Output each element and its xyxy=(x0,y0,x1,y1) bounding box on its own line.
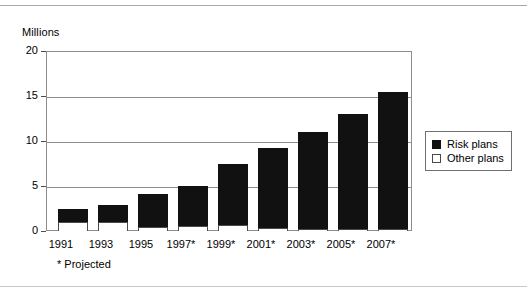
page-bottom-rule xyxy=(0,286,527,287)
bar-segment-other xyxy=(178,226,208,231)
y-tick-label-15: 15 xyxy=(14,90,38,101)
bar-segment-risk xyxy=(98,205,128,222)
bar-2005 xyxy=(338,114,368,231)
y-tick-label-10: 10 xyxy=(14,135,38,146)
bar-segment-other xyxy=(58,222,88,231)
legend-swatch-hollow-icon xyxy=(432,154,441,163)
footnote-projected: * Projected xyxy=(57,258,111,270)
bar-2003 xyxy=(298,132,328,231)
chart-legend: Risk plans Other plans xyxy=(425,131,512,171)
y-tick-mark-0 xyxy=(41,231,46,232)
bar-segment-other xyxy=(138,227,168,232)
y-tick-label-5: 5 xyxy=(14,180,38,191)
legend-item-other-plans: Other plans xyxy=(432,151,504,165)
bar-segment-risk xyxy=(378,92,408,230)
legend-swatch-filled-icon xyxy=(432,140,441,149)
legend-label-other-plans: Other plans xyxy=(447,153,504,164)
bar-segment-risk xyxy=(338,114,368,229)
bar-1991 xyxy=(58,209,88,231)
bar-segment-risk xyxy=(298,132,328,229)
bar-segment-risk xyxy=(178,186,208,226)
legend-item-risk-plans: Risk plans xyxy=(432,137,504,151)
bar-segment-other xyxy=(378,229,408,231)
bar-segment-other xyxy=(258,228,288,231)
chart-figure: Millions 20 15 10 5 0 xyxy=(0,0,527,288)
bars-layer xyxy=(46,51,412,231)
bar-segment-other xyxy=(98,222,128,231)
bar-segment-risk xyxy=(58,209,88,222)
legend-label-risk-plans: Risk plans xyxy=(447,139,498,150)
page-top-rule xyxy=(0,5,527,6)
bar-segment-risk xyxy=(258,148,288,228)
bar-2001 xyxy=(258,148,288,231)
bar-1999 xyxy=(218,164,248,232)
bar-2007 xyxy=(378,92,408,232)
bar-segment-risk xyxy=(218,164,248,225)
y-tick-label-20: 20 xyxy=(14,45,38,56)
bar-1993 xyxy=(98,205,128,231)
bar-1995 xyxy=(138,194,168,231)
bar-segment-other xyxy=(298,229,328,231)
y-axis-units-label: Millions xyxy=(22,26,59,38)
bar-segment-other xyxy=(338,229,368,231)
bar-segment-other xyxy=(218,225,248,231)
x-tick-label-2007: 2007* xyxy=(358,238,404,250)
bar-segment-risk xyxy=(138,194,168,226)
bar-1997 xyxy=(178,186,208,231)
y-tick-label-0: 0 xyxy=(14,225,38,236)
